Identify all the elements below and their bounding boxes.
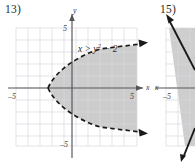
graph-problem-15: 15)	[155, 0, 195, 163]
inequality-lhs: x	[78, 44, 83, 54]
y-axis-arrow	[69, 14, 75, 21]
inequality-rhs-tail: − 2	[101, 44, 117, 54]
x-tick-label-negative-5: –5	[8, 92, 16, 101]
coordinate-plane-15	[155, 0, 195, 163]
y-tick-label-negative-5: –5	[60, 140, 68, 149]
inequality-relation: >	[83, 44, 94, 54]
problem-number-13: 13)	[5, 3, 21, 15]
graph-problem-13: 13)	[0, 0, 155, 163]
upper-branch-arrow	[139, 40, 149, 48]
lower-branch-arrow	[139, 129, 149, 137]
inequality-label: x>y2− 2	[78, 42, 118, 54]
x-tick-label-negative-5-15: –5	[163, 92, 171, 101]
x-axis-label-15: x	[155, 83, 159, 92]
figure-page: 13)	[0, 0, 195, 163]
problem-number-15: 15)	[160, 3, 176, 15]
x-axis-arrow	[136, 85, 143, 91]
x-tick-label-positive-5: 5	[130, 92, 134, 101]
coordinate-plane-13	[0, 0, 155, 163]
y-tick-label-positive-5: 5	[63, 24, 67, 33]
boundary-upper-arrow	[166, 14, 174, 24]
y-axis-label: y	[73, 6, 77, 15]
x-axis-label: x	[146, 83, 150, 92]
